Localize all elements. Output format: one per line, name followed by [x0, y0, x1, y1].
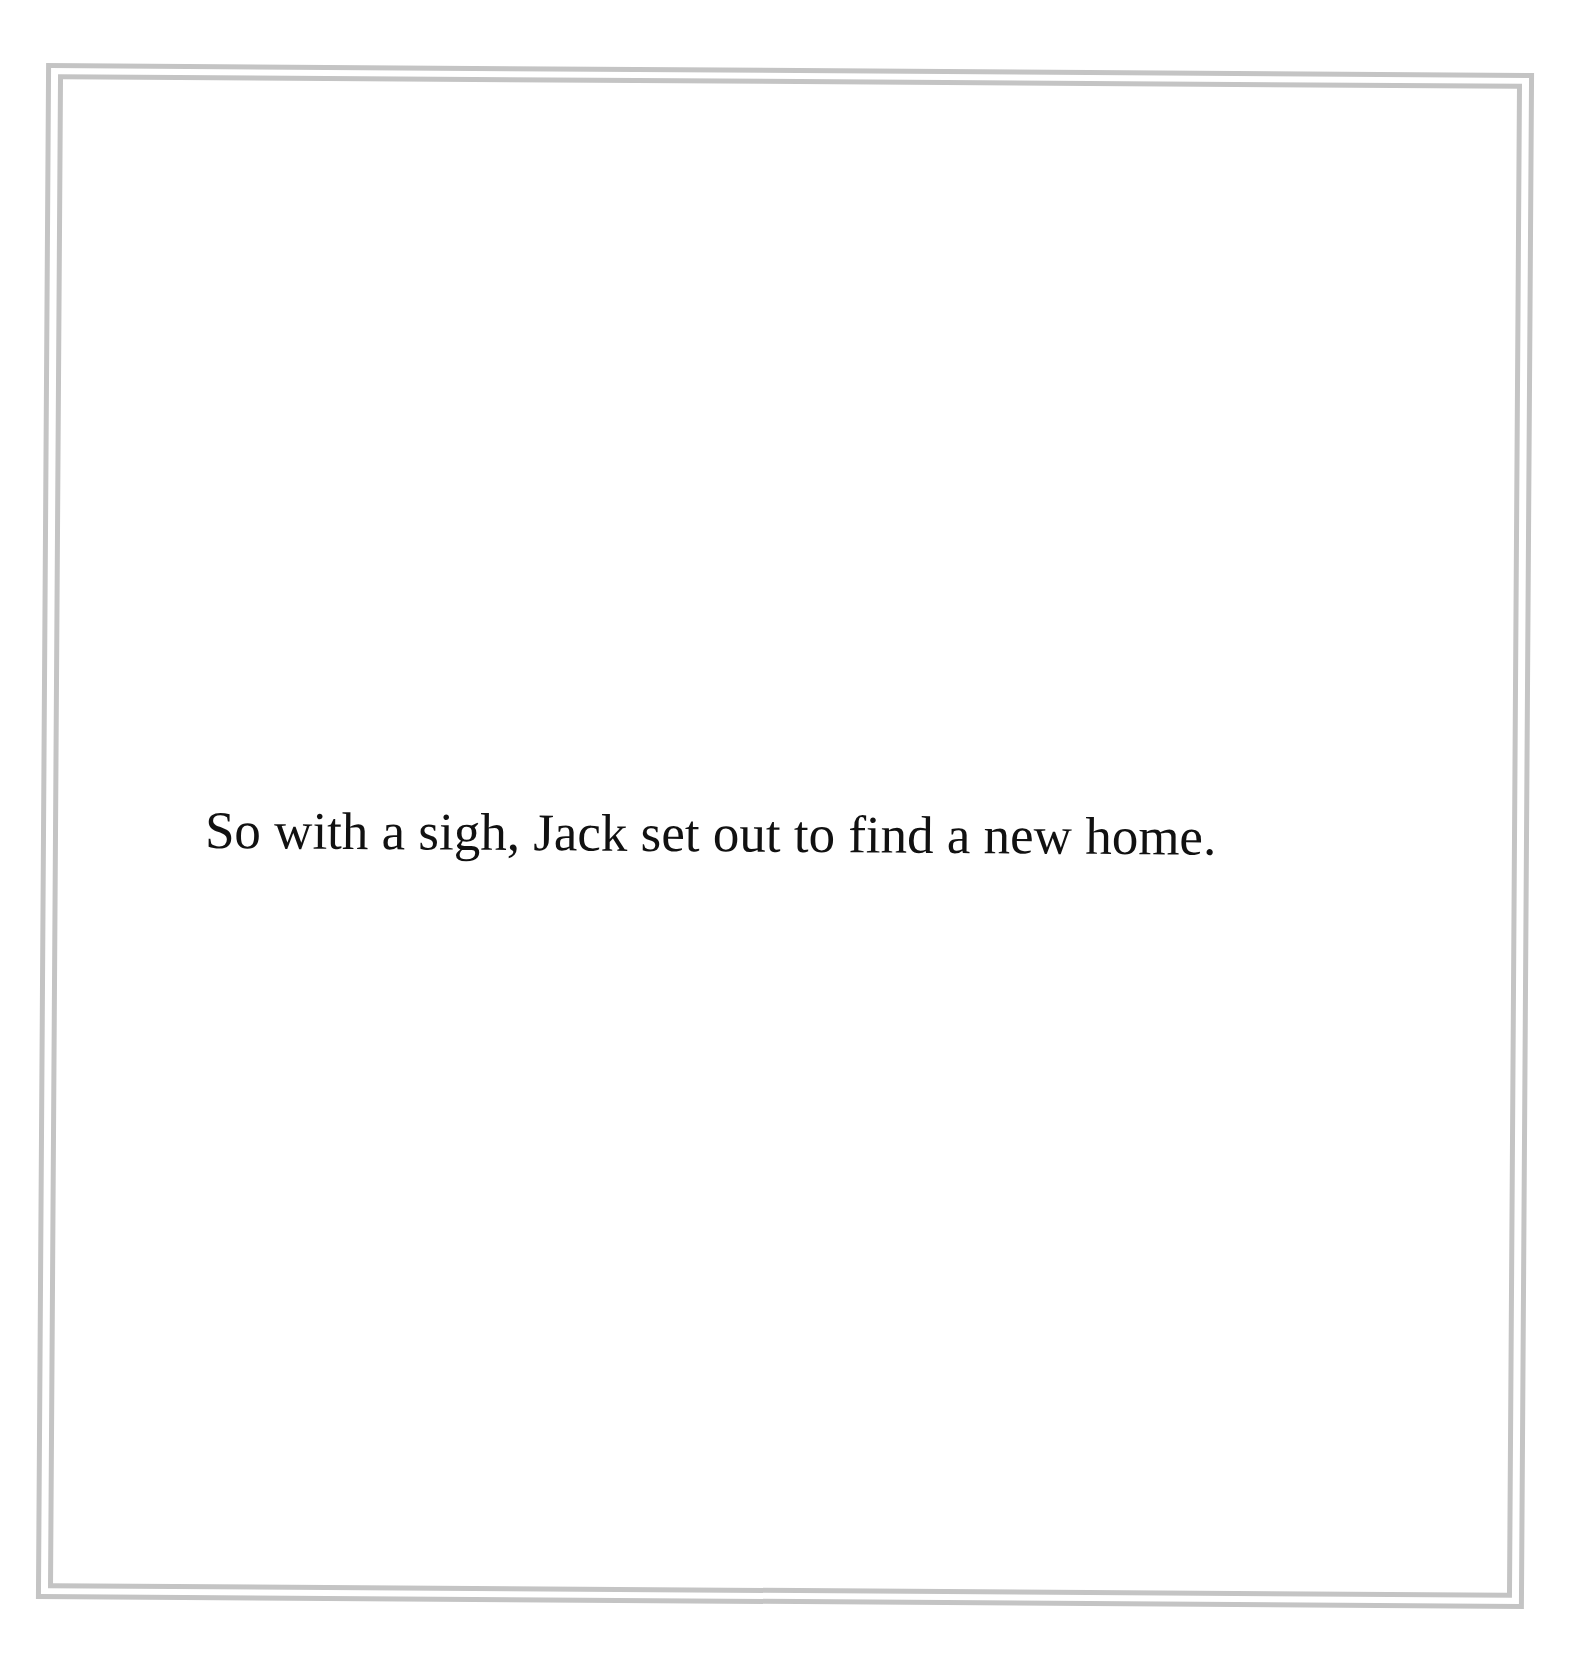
story-text: So with a sigh, Jack set out to find a n… [205, 795, 1295, 872]
